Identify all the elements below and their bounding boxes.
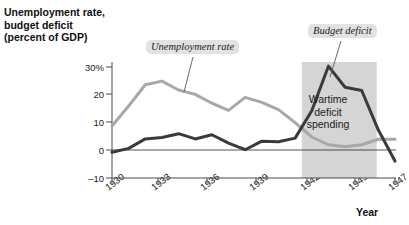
wartime-annotation-line-3: spending (299, 118, 357, 131)
wartime-annotation-line-2: deficit (299, 106, 357, 119)
x-tick-marks (112, 178, 395, 184)
y-tick-marks (106, 67, 112, 178)
wartime-annotation-line-1: Wartime (299, 93, 357, 106)
unemployment-rate-callout: Unemployment rate (146, 40, 239, 54)
wartime-deficit-spending-annotation: Wartime deficit spending (299, 93, 357, 131)
budget-deficit-callout: Budget deficit (308, 24, 377, 38)
unemployment-callout-leader (184, 57, 193, 92)
